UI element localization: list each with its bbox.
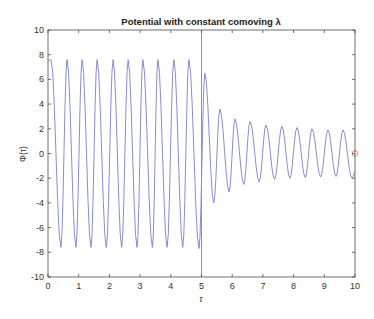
chart-title: Potential with constant comoving λ [121,16,281,27]
x-tick-label: 1 [76,281,81,291]
y-tick-label: 4 [39,99,44,109]
line-chart: Potential with constant comoving λ 01234… [0,0,374,319]
x-tick-label: 5 [199,281,204,291]
y-tick-label: 2 [39,124,44,134]
y-tick-label: 10 [34,25,44,35]
figure: Potential with constant comoving λ 01234… [0,0,374,319]
y-tick-label: 6 [39,74,44,84]
x-tick-label: 2 [107,281,112,291]
y-tick-label: 0 [39,149,44,159]
y-axis-label: Φ(τ) [18,146,28,162]
y-tick-label: 8 [39,50,44,60]
x-tick-label: 8 [291,281,296,291]
x-tick-label: 10 [350,281,360,291]
x-tick-label: 6 [230,281,235,291]
y-tick-label: -4 [36,198,44,208]
x-tick-label: 9 [322,281,327,291]
x-tick-label: 4 [168,281,173,291]
y-tick-label: -6 [36,223,44,233]
x-tick-label: 7 [260,281,265,291]
x-tick-label: 0 [45,281,50,291]
x-tick-label: 3 [138,281,143,291]
y-tick-label: -8 [36,247,44,257]
y-tick-label: -2 [36,173,44,183]
y-tick-label: -10 [31,272,44,282]
